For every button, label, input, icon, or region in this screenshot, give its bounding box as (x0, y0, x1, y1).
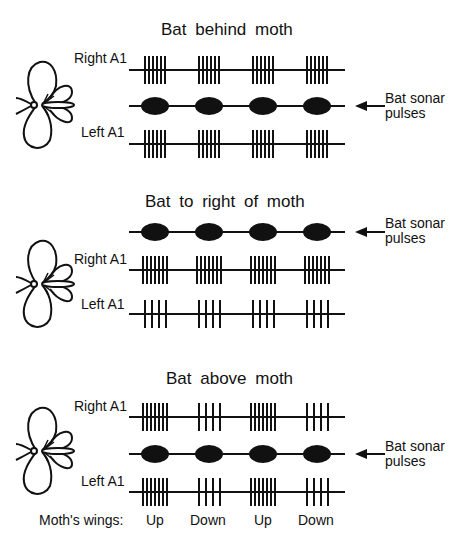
panel-bat-above-moth: Bat above moth Right A1 Bat sonar pulses… (0, 360, 472, 539)
spike (162, 478, 164, 506)
spike (262, 478, 264, 506)
spike (146, 403, 148, 431)
spike (210, 130, 212, 158)
spike (318, 130, 320, 158)
spike (314, 130, 316, 158)
spike (270, 478, 272, 506)
left-a1-label: Left A1 (81, 124, 125, 140)
spike (198, 56, 200, 84)
spike (274, 256, 276, 284)
spike (266, 300, 268, 328)
spike (164, 56, 166, 84)
spike (259, 300, 261, 328)
sonar-pulse (141, 97, 169, 115)
spike (252, 56, 254, 84)
spike (208, 256, 210, 284)
moth-icon (14, 402, 76, 498)
spike (198, 300, 200, 328)
spike (254, 403, 256, 431)
spike (308, 256, 310, 284)
sonar-pulses-label: Bat sonar pulses (385, 216, 445, 246)
spike (326, 56, 328, 84)
spike (150, 403, 152, 431)
moth-icon (14, 56, 76, 152)
spike (318, 56, 320, 84)
left-a1-trace (129, 130, 345, 158)
spike (212, 256, 214, 284)
spike (212, 300, 214, 328)
arrow-left-icon (355, 226, 385, 238)
spike (158, 403, 160, 431)
spike (327, 478, 329, 506)
spike (152, 130, 154, 158)
spike (258, 256, 260, 284)
panel-bat-behind-moth: Bat behind moth Right A1 Bat sonar pulse… (0, 0, 472, 180)
spike (160, 56, 162, 84)
spike (166, 403, 168, 431)
spike (328, 256, 330, 284)
spike (202, 56, 204, 84)
spike (196, 256, 198, 284)
spike (306, 478, 308, 506)
spike (158, 300, 160, 328)
sonar-pulse (249, 223, 277, 241)
spike (142, 478, 144, 506)
spike (210, 56, 212, 84)
wing-state-4: Down (298, 512, 334, 528)
arrow-left-icon (355, 100, 385, 112)
spike (264, 130, 266, 158)
spike (256, 130, 258, 158)
spike (320, 256, 322, 284)
spike (268, 130, 270, 158)
spike (254, 478, 256, 506)
spike (252, 130, 254, 158)
spike (306, 56, 308, 84)
spike (258, 478, 260, 506)
spike (250, 478, 252, 506)
spike (142, 256, 144, 284)
spike (256, 56, 258, 84)
spike (250, 256, 252, 284)
right-a1-label: Right A1 (74, 50, 127, 66)
sonar-label-line1: Bat sonar (385, 216, 445, 231)
spike (310, 56, 312, 84)
spike (205, 300, 207, 328)
spike (306, 403, 308, 431)
spike (144, 300, 146, 328)
spike (166, 256, 168, 284)
spike (160, 130, 162, 158)
spike (320, 403, 322, 431)
spike (144, 56, 146, 84)
spike (218, 130, 220, 158)
sonar-trace (129, 96, 345, 116)
spike (205, 478, 207, 506)
spike (214, 56, 216, 84)
spike (266, 478, 268, 506)
wing-state-3: Up (254, 512, 272, 528)
left-a1-label: Left A1 (81, 473, 125, 489)
spike (272, 130, 274, 158)
sonar-pulse (195, 223, 223, 241)
right-a1-label: Right A1 (74, 251, 127, 267)
spike (312, 256, 314, 284)
wings-label: Moth's wings: (39, 512, 123, 528)
right-a1-label: Right A1 (74, 398, 127, 414)
spike (260, 130, 262, 158)
left-a1-trace (129, 300, 345, 328)
sonar-pulse (141, 223, 169, 241)
spike (202, 130, 204, 158)
spike (164, 130, 166, 158)
spike (158, 256, 160, 284)
spike (219, 300, 221, 328)
sonar-pulses-label: Bat sonar pulses (385, 439, 445, 469)
spike (252, 300, 254, 328)
spike (306, 300, 308, 328)
spike (274, 478, 276, 506)
spike (327, 300, 329, 328)
sonar-label-line2: pulses (385, 106, 445, 121)
spike (212, 403, 214, 431)
spike (219, 403, 221, 431)
spike (250, 403, 252, 431)
sonar-pulse (141, 445, 169, 463)
spike (154, 478, 156, 506)
